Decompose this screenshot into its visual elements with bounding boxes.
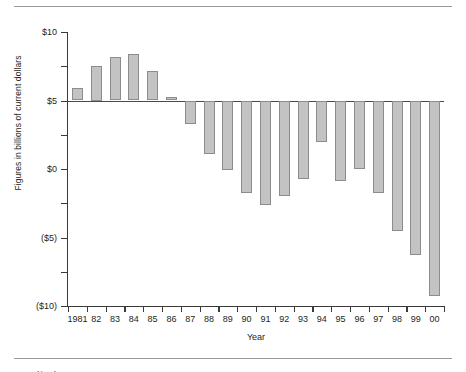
bar	[354, 101, 365, 170]
bar	[392, 101, 403, 231]
x-tick	[388, 306, 389, 312]
y-tick: ($5)	[61, 135, 68, 136]
bar	[260, 101, 271, 205]
x-tick-label: 97	[373, 314, 383, 324]
x-tick	[425, 306, 426, 312]
plot-area: $10$5$0($5)($10)($15)($20)($25)($30) 198…	[68, 32, 444, 306]
x-tick-label: 91	[260, 314, 270, 324]
x-tick	[331, 306, 332, 312]
bar	[429, 101, 440, 296]
x-tick-label: 98	[392, 314, 402, 324]
x-tick-label: 95	[336, 314, 346, 324]
x-tick-label: 96	[354, 314, 364, 324]
y-tick: $5	[61, 66, 68, 67]
y-tick-label: $0	[11, 164, 57, 174]
y-tick: $10	[61, 32, 68, 33]
x-tick	[106, 306, 107, 312]
y-tick-label: $5	[11, 96, 57, 106]
y-tick: ($15)	[61, 203, 68, 204]
x-tick	[181, 306, 182, 312]
bar	[241, 101, 252, 193]
bar	[410, 101, 421, 255]
x-tick-label: 1981	[67, 314, 87, 324]
x-tick-label: 99	[411, 314, 421, 324]
x-tick-label: 85	[148, 314, 158, 324]
bar	[110, 57, 121, 101]
x-tick-label: 82	[91, 314, 101, 324]
bar	[222, 101, 233, 171]
bar	[373, 101, 384, 193]
x-tick-label: 94	[317, 314, 327, 324]
x-tick	[87, 306, 88, 312]
x-axis-title: Year	[68, 332, 444, 342]
y-tick: ($10)	[61, 169, 68, 170]
x-tick-label: 89	[223, 314, 233, 324]
bar	[316, 101, 327, 142]
x-tick	[444, 306, 445, 312]
bar	[166, 97, 177, 100]
x-tick	[369, 306, 370, 312]
y-tick: ($20)	[61, 238, 68, 239]
page-rule-bottom	[14, 358, 452, 359]
x-tick	[200, 306, 201, 312]
x-tick-label: 93	[298, 314, 308, 324]
y-tick-label: $10	[11, 27, 57, 37]
x-tick	[143, 306, 144, 312]
x-tick	[275, 306, 276, 312]
x-tick	[294, 306, 295, 312]
y-tick-label: ($5)	[11, 233, 57, 243]
bar	[91, 66, 102, 100]
x-tick-label: 87	[185, 314, 195, 324]
page-rule-top	[14, 6, 452, 7]
x-tick-label: 84	[129, 314, 139, 324]
x-tick	[256, 306, 257, 312]
bar	[298, 101, 309, 180]
x-tick-label: 88	[204, 314, 214, 324]
bar-chart-figure: Figures in billions of current dollars $…	[0, 10, 466, 354]
x-tick-label: 90	[242, 314, 252, 324]
x-tick	[406, 306, 407, 312]
x-tick	[218, 306, 219, 312]
x-tick	[162, 306, 163, 312]
x-tick	[237, 306, 238, 312]
x-tick-label: 86	[166, 314, 176, 324]
x-tick	[312, 306, 313, 312]
x-tick	[124, 306, 125, 312]
x-tick	[350, 306, 351, 312]
x-tick-label: 92	[279, 314, 289, 324]
bar	[185, 101, 196, 125]
bar	[147, 71, 158, 100]
bar	[128, 54, 139, 101]
x-tick	[68, 306, 69, 312]
bar	[279, 101, 290, 197]
y-tick: $0	[61, 101, 68, 102]
bar	[335, 101, 346, 182]
x-tick-label: 00	[430, 314, 440, 324]
bar	[72, 88, 83, 100]
zero-baseline	[68, 101, 444, 102]
y-tick-label: ($10)	[11, 301, 57, 311]
bar	[204, 101, 215, 154]
y-axis-title: Figures in billions of current dollars	[13, 43, 23, 203]
y-tick: ($30)	[61, 306, 68, 307]
x-tick-label: 83	[110, 314, 120, 324]
y-tick: ($25)	[61, 272, 68, 273]
